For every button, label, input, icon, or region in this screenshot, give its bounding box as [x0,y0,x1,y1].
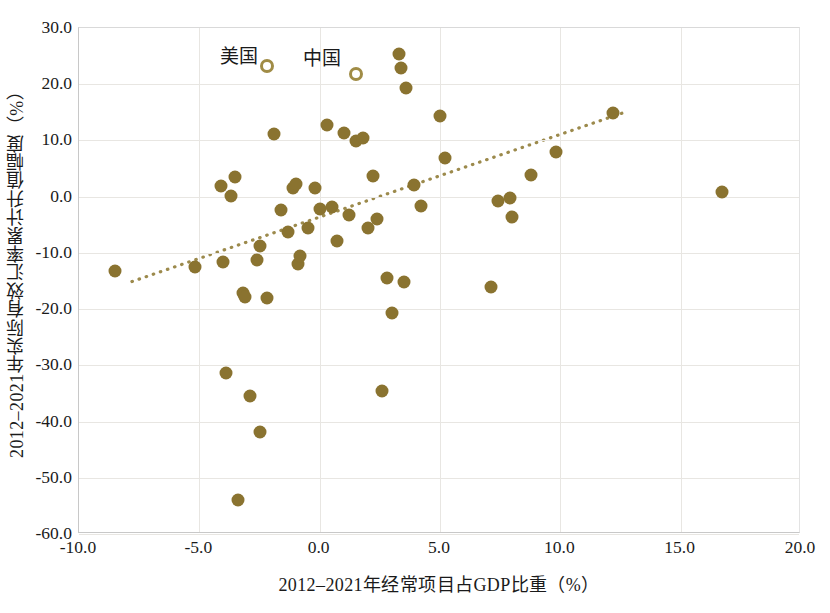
data-point [395,62,408,75]
data-point [366,170,379,183]
x-axis-tick-label: 5.0 [428,537,450,558]
scatter-chart: 2012–2021年实际有效汇率累计升值幅度（%） 30.020.010.00.… [0,0,830,613]
data-point [337,126,350,139]
data-point [491,195,504,208]
data-point [109,265,122,278]
data-point [229,170,242,183]
y-axis-tick-label: 0.0 [2,185,78,206]
x-axis-tick-labels: -10.0-5.00.05.010.015.020.0 [78,537,800,565]
x-axis-tick-label: 15.0 [664,537,695,558]
data-point [325,201,338,214]
data-point [407,178,420,191]
y-axis-tick-label: -30.0 [2,354,78,375]
data-point [484,280,497,293]
y-axis-tick-labels: 30.020.010.00.0-10.0-20.0-30.0-40.0-50.0… [0,27,78,533]
data-point [356,131,369,144]
x-axis-title: 2012–2021年经常项目占GDP比重（%） [78,570,800,596]
data-point [282,225,295,238]
highlighted-data-point [349,67,363,81]
data-point [342,208,355,221]
y-axis-tick-label: -50.0 [2,466,78,487]
data-point [397,275,410,288]
data-point [294,250,307,263]
data-point [301,221,314,234]
y-axis-tick-label: -40.0 [2,410,78,431]
y-axis-tick-label: -10.0 [2,241,78,262]
data-point [239,291,252,304]
data-point [607,106,620,119]
highlighted-data-point [260,59,274,73]
data-point [549,146,562,159]
data-point [385,307,398,320]
data-point [371,213,384,226]
data-point [434,109,447,122]
data-point [251,253,264,266]
gridline-horizontal [79,534,799,535]
gridline-horizontal [79,140,799,141]
data-point [217,256,230,269]
data-point [414,200,427,213]
x-axis-tick-label: 20.0 [785,537,816,558]
data-point [253,425,266,438]
data-point-annotation: 美国 [220,41,259,68]
gridline-horizontal [79,478,799,479]
data-point [313,203,326,216]
data-point [503,192,516,205]
y-axis-tick-label: 10.0 [2,129,78,150]
y-axis-tick-label: 20.0 [2,73,78,94]
data-point [308,182,321,195]
data-point [253,239,266,252]
data-point [260,292,273,305]
data-point [320,119,333,132]
data-point [438,152,451,165]
x-axis-tick-label: 10.0 [544,537,575,558]
gridline-vertical [199,28,200,532]
data-point [330,235,343,248]
gridline-horizontal [79,84,799,85]
data-point [393,48,406,61]
data-point [188,260,201,273]
data-point [224,189,237,202]
y-axis-tick-label: 30.0 [2,17,78,38]
data-point [267,128,280,141]
data-point [275,204,288,217]
gridline-vertical [681,28,682,532]
data-point [289,177,302,190]
data-point-annotation: 中国 [303,43,342,70]
data-point [400,82,413,95]
gridline-vertical [560,28,561,532]
data-point [715,186,728,199]
gridline-vertical [320,28,321,532]
gridline-horizontal [79,197,799,198]
data-point [381,271,394,284]
data-point [219,367,232,380]
plot-area: 美国中国 [78,27,800,533]
x-axis-tick-label: -5.0 [184,537,212,558]
data-point [525,169,538,182]
gridline-horizontal [79,253,799,254]
gridline-horizontal [79,365,799,366]
data-point [243,389,256,402]
data-point [376,384,389,397]
data-point [506,210,519,223]
x-axis-tick-label: -10.0 [60,537,96,558]
gridline-horizontal [79,309,799,310]
y-axis-tick-label: -20.0 [2,298,78,319]
gridline-vertical [440,28,441,532]
data-point [231,494,244,507]
gridline-horizontal [79,422,799,423]
x-axis-tick-label: 0.0 [308,537,330,558]
